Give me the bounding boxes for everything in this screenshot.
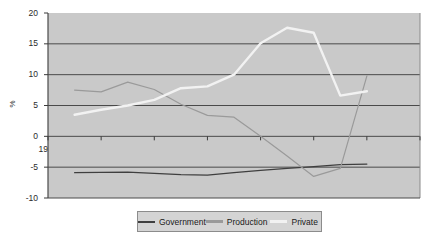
legend-swatch-private (270, 220, 287, 223)
plot-area (0, 0, 434, 241)
legend-item-private: Private (267, 217, 321, 227)
line-chart: % 20 15 10 5 0 -5 -10 1994 1996 1998 200… (0, 0, 434, 241)
legend-label: Production (227, 217, 268, 227)
chart-legend: Government Production Private (137, 211, 322, 232)
legend-label: Government (159, 217, 206, 227)
legend-item-production: Production (206, 217, 268, 227)
legend-swatch-production (206, 220, 223, 223)
legend-label: Private (291, 217, 317, 227)
legend-swatch-government (138, 221, 155, 223)
legend-item-government: Government (138, 217, 206, 227)
